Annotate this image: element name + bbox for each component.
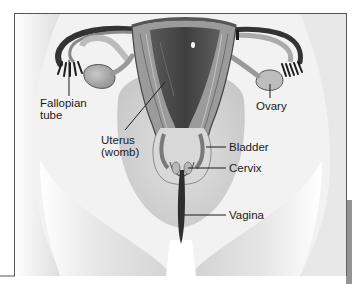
label-fallopian-tube-line2: tube — [40, 109, 87, 121]
label-fallopian-tube-line1: Fallopian — [40, 97, 87, 109]
label-uterus-line2: (womb) — [101, 146, 139, 158]
label-bladder: Bladder — [229, 141, 269, 153]
label-cervix: Cervix — [229, 162, 262, 174]
label-uterus-line1: Uterus — [101, 134, 139, 146]
label-vagina: Vagina — [229, 209, 264, 221]
reproductive-organs-illustration — [0, 0, 352, 284]
label-uterus: Uterus (womb) — [101, 134, 139, 158]
label-fallopian-tube: Fallopian tube — [40, 97, 87, 121]
anatomy-diagram: Fallopian tube Ovary Uterus (womb) Bladd… — [0, 0, 352, 284]
label-ovary: Ovary — [256, 100, 287, 112]
